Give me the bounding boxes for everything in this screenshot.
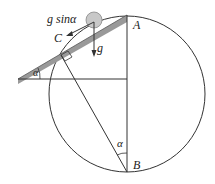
label-alpha-top: α: [33, 68, 38, 78]
label-a: A: [133, 19, 140, 31]
label-b: B: [133, 159, 140, 171]
label-g: g: [97, 42, 103, 54]
diagram-canvas: [0, 0, 215, 184]
label-c: C: [54, 32, 62, 44]
label-alpha-bottom: α: [117, 138, 123, 149]
gravity-arrow-icon: [92, 50, 97, 57]
label-gsin: g sinα: [47, 13, 76, 25]
angle-arc-bottom: [117, 153, 127, 155]
chord-to-b: [61, 55, 127, 172]
gsin-arrow-icon: [66, 31, 73, 36]
